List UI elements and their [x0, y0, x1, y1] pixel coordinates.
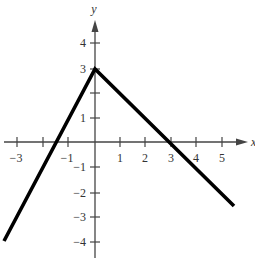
y-axis: 4 3 1 −1 −2 −3 −4 y: [73, 2, 100, 258]
x-tick-label: 1: [117, 151, 123, 165]
chart-canvas: −3 −1 1 2 3 4 5 x 4 3 1 −1 −2 −3 −4 y: [0, 0, 255, 269]
y-tick-label: 4: [80, 36, 86, 50]
x-axis-label: x: [250, 135, 255, 149]
y-tick-label: −4: [73, 235, 86, 249]
x-tick-label: −1: [61, 151, 74, 165]
y-tick-label: −3: [73, 210, 86, 224]
x-axis: −3 −1 1 2 3 4 5 x: [4, 135, 255, 165]
x-tick-label: 2: [142, 151, 148, 165]
x-axis-arrow-icon: [236, 139, 248, 146]
x-tick-label: −3: [10, 151, 23, 165]
y-tick-label: −2: [73, 186, 86, 200]
x-tick-label: 5: [219, 151, 225, 165]
y-axis-label: y: [90, 2, 97, 16]
x-tick-label: 4: [193, 151, 199, 165]
y-axis-arrow-icon: [92, 20, 99, 32]
x-tick-label: 3: [168, 151, 174, 165]
y-tick-label: −1: [73, 160, 86, 174]
y-tick-label: 3: [80, 62, 86, 76]
y-tick-label: 1: [80, 111, 86, 125]
